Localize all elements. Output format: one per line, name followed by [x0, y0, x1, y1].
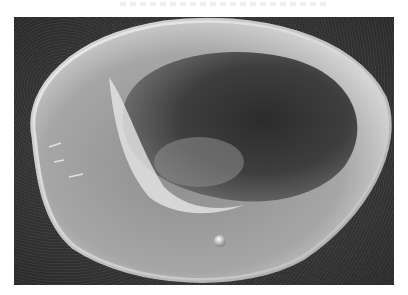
- red-blood-cell-illustration: [14, 17, 394, 285]
- micrograph-photo: [14, 17, 394, 285]
- page-bleed-through: [120, 2, 330, 6]
- textured-patch: [154, 137, 244, 187]
- surface-particle: [214, 235, 226, 247]
